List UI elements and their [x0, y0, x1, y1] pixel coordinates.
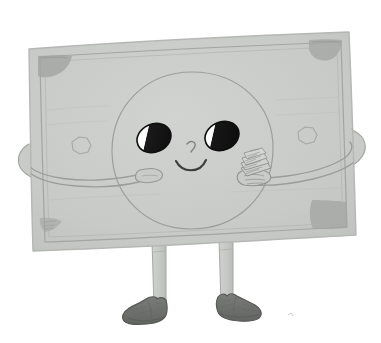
shoe-right — [217, 294, 262, 322]
shoe-left — [123, 297, 168, 325]
dollar-bill-character — [0, 0, 381, 343]
leg-left — [152, 239, 166, 306]
illustration-canvas: Cartoon dollar bill character A hand-dra… — [0, 0, 381, 343]
hand-left-pointing — [136, 169, 163, 183]
stray-mark — [288, 313, 293, 316]
leg-right — [219, 237, 233, 303]
